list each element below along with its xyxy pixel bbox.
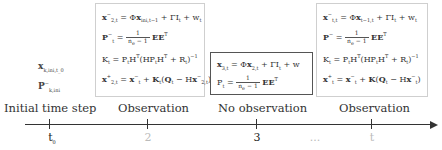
observation-equations-box-step-2: x−2,t = Φxini,t−1 + ΓIt + wt P−t = 1ne −… [95, 3, 205, 97]
initial-covariance-variable: P−k,ini [38, 80, 60, 93]
tick-label-2: 2 [145, 131, 152, 144]
initial-state-variable: xk,ini,t_0 [38, 61, 64, 73]
observation-label-step-2: Observation [118, 101, 189, 115]
observation-equations-box-step-t: x−t,t = Φxt−1,t + ΓIt + wt P− = 1ne − 1 … [316, 3, 428, 97]
time-axis-arrowhead-icon [430, 121, 438, 129]
state-forecast-equation: x−2,t = Φxini,t−1 + ΓIt + wt [102, 12, 201, 23]
tick-label-ellipsis: ... [310, 131, 321, 144]
tick-label-t0: t0 [48, 131, 56, 145]
no-observation-label-step-3: No observation [218, 101, 307, 115]
tick-2 [147, 119, 148, 129]
state-update-equation: x+2,t = x−t + Kt(Qt − Hx−2,t) [102, 74, 211, 85]
no-observation-equations-box-step-3: x3,t = Φx2,t + ΓIt + w Pt = 1ne − 1 EET [210, 52, 313, 95]
observation-label-step-t: Observation [339, 101, 410, 115]
tick-t [371, 119, 372, 129]
kalman-gain-equation: Kt = PtHT(HPtHT + Rt)−1 [102, 54, 198, 65]
tick-label-t: t [370, 131, 374, 144]
tick-3 [256, 119, 257, 129]
initial-time-step-label: Initial time step [4, 101, 96, 115]
covariance-forecast-equation: P−t = 1ne − 1 EET [102, 30, 168, 46]
tick-t0 [49, 119, 50, 129]
kalman-gain-equation: Kt = PtHT(HPtHT + Rt)−1 [323, 54, 419, 65]
state-update-equation: x+t = x−t + K(Qt − Hx−t) [323, 74, 421, 85]
covariance-propagation-equation: Pt = 1ne − 1 EET [217, 75, 278, 91]
state-propagation-equation: x3,t = Φx2,t + ΓIt + w [217, 60, 300, 71]
tick-label-3: 3 [254, 131, 261, 144]
covariance-forecast-equation: P− = 1ne − 1 EET [323, 30, 387, 46]
state-forecast-equation: x−t,t = Φxt−1,t + ΓIt + wt [323, 12, 417, 23]
